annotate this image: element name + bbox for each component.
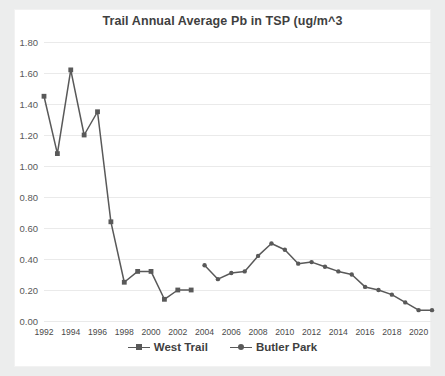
data-point-square	[135, 269, 140, 274]
y-tick-label: 0.60	[20, 223, 39, 234]
data-point-circle	[229, 271, 233, 275]
data-point-circle	[256, 254, 260, 258]
data-point-circle	[403, 300, 407, 304]
x-tick-label: 2010	[275, 327, 294, 337]
data-point-square	[68, 68, 73, 73]
x-tick-label: 2002	[168, 327, 187, 337]
data-point-square	[175, 288, 180, 293]
chart-title: Trail Annual Average Pb in TSP (ug/m^3	[0, 14, 445, 28]
data-point-square	[55, 151, 60, 156]
data-point-circle	[390, 292, 394, 296]
data-point-square	[162, 297, 167, 302]
chart-page: Trail Annual Average Pb in TSP (ug/m^3 0…	[0, 0, 445, 376]
x-tick-label: 2000	[141, 327, 160, 337]
data-point-square	[109, 219, 114, 224]
data-point-circle	[376, 288, 380, 292]
series-line	[44, 70, 191, 299]
data-point-circle	[216, 277, 220, 281]
x-tick-label: 2014	[329, 327, 348, 337]
legend-item-west-trail[interactable]: West Trail	[128, 341, 208, 353]
x-tick-label: 2020	[409, 327, 428, 337]
data-point-circle	[350, 272, 354, 276]
data-point-circle	[336, 269, 340, 273]
x-tick-label: 1998	[115, 327, 134, 337]
data-point-circle	[430, 308, 434, 312]
data-point-circle	[296, 261, 300, 265]
series-line	[205, 244, 432, 311]
data-point-square	[95, 109, 100, 114]
legend-label: West Trail	[154, 341, 208, 353]
data-point-circle	[416, 308, 420, 312]
data-point-square	[42, 94, 47, 99]
y-tick-label: 1.60	[20, 68, 39, 79]
y-tick-label: 1.40	[20, 99, 39, 110]
y-tick-label: 0.00	[20, 316, 39, 327]
y-tick-label: 0.40	[20, 254, 39, 265]
x-tick-label: 2004	[195, 327, 214, 337]
data-point-square	[122, 280, 127, 285]
legend-marker-circle-icon	[230, 342, 252, 352]
x-tick-label: 2008	[249, 327, 268, 337]
x-tick-label: 1996	[88, 327, 107, 337]
data-point-circle	[309, 260, 313, 264]
data-point-square	[149, 269, 154, 274]
y-tick-label: 1.80	[20, 37, 39, 48]
data-point-circle	[323, 265, 327, 269]
data-point-square	[189, 288, 194, 293]
x-axis-tick-labels: 1992199419961998200020022004200620082010…	[44, 321, 432, 341]
x-tick-label: 2006	[222, 327, 241, 337]
data-point-circle	[242, 269, 246, 273]
plot-area: 0.000.200.400.600.801.001.201.401.601.80	[44, 42, 432, 321]
x-tick-label: 1992	[34, 327, 53, 337]
legend-marker-square-icon	[128, 342, 150, 352]
legend-item-butler-park[interactable]: Butler Park	[230, 341, 317, 353]
y-tick-label: 1.00	[20, 161, 39, 172]
y-tick-label: 1.20	[20, 130, 39, 141]
y-tick-label: 0.80	[20, 192, 39, 203]
chart-legend: West Trail Butler Park	[0, 341, 445, 353]
data-point-square	[82, 133, 87, 138]
legend-label: Butler Park	[256, 341, 317, 353]
x-tick-label: 2016	[356, 327, 375, 337]
x-tick-label: 2012	[302, 327, 321, 337]
data-point-circle	[363, 285, 367, 289]
data-point-circle	[269, 241, 273, 245]
x-tick-label: 2018	[382, 327, 401, 337]
x-tick-label: 1994	[61, 327, 80, 337]
y-tick-label: 0.20	[20, 285, 39, 296]
series-layer	[44, 42, 432, 321]
data-point-circle	[202, 263, 206, 267]
data-point-circle	[283, 248, 287, 252]
